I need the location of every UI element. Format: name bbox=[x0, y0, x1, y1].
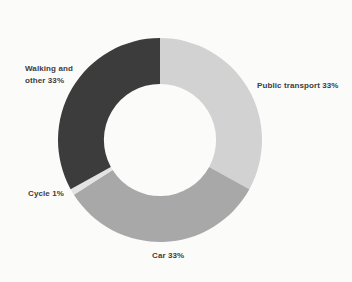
segment-label-walking-and-other: Walking and other 33% bbox=[25, 63, 89, 87]
donut-segment-public-transport bbox=[160, 38, 262, 189]
segment-label-cycle: Cycle 1% bbox=[28, 188, 64, 200]
donut-segment-walking-and-other bbox=[58, 38, 160, 189]
donut-chart-svg bbox=[0, 0, 352, 282]
donut-segment-car bbox=[74, 167, 250, 242]
segment-label-public-transport: Public transport 33% bbox=[257, 80, 349, 92]
transport-mode-share-donut-chart: Walking and other 33% Public transport 3… bbox=[0, 0, 352, 282]
segment-label-car: Car 33% bbox=[152, 250, 184, 262]
